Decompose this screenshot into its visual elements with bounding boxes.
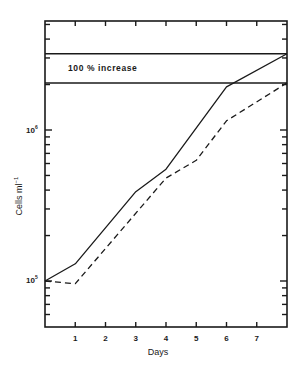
x-tick-label: 6 [224,334,229,343]
y-axis-title: Cells ml−1 [13,176,24,216]
growth-chart: 100 % increase 106 105 1234567 Days Cell… [0,0,300,367]
x-tick-label: 3 [134,334,139,343]
annotation-100-percent-increase: 100 % increase [68,63,137,73]
x-tick-label: 7 [255,334,260,343]
x-tick-labels: 1234567 [73,334,260,343]
x-tick-label: 2 [103,334,108,343]
x-tick-label: 1 [73,334,78,343]
x-axis-title: Days [148,347,169,357]
y-tick-label-1e5: 105 [26,274,38,285]
y-tick-label-1e6: 106 [26,124,38,135]
x-tick-label: 4 [164,334,169,343]
series-dashed-line [45,83,287,284]
series-solid-line [45,54,287,281]
data-series [45,54,287,284]
x-tick-label: 5 [194,334,199,343]
